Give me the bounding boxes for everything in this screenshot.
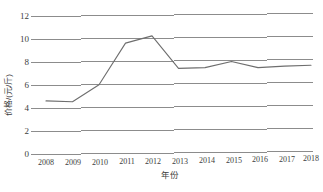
x-tick-label-2013: 2013 bbox=[172, 157, 188, 166]
line-chart: 12 10 8 6 4 2 0 价格/(元/斤) 2008 2009 2010 … bbox=[0, 0, 323, 192]
y-axis-title: 价格/(元/斤) bbox=[3, 74, 13, 116]
y-tick-label-8: 8 bbox=[25, 57, 30, 67]
y-tick-label-6: 6 bbox=[25, 80, 30, 90]
y-tickmarks bbox=[31, 17, 35, 155]
gridlines bbox=[35, 14, 313, 155]
y-tick-label-10: 10 bbox=[20, 34, 30, 44]
gridline-6 bbox=[35, 83, 313, 86]
x-tick-label-2009: 2009 bbox=[65, 158, 81, 167]
x-tick-labels: 2008 2009 2010 2011 2012 2013 2014 2015 … bbox=[38, 154, 319, 167]
x-tick-label-2016: 2016 bbox=[252, 155, 268, 164]
y-tick-label-2: 2 bbox=[25, 126, 30, 136]
y-tick-label-4: 4 bbox=[25, 103, 30, 113]
x-tick-label-2014: 2014 bbox=[199, 156, 215, 165]
x-tick-label-2008: 2008 bbox=[38, 158, 54, 167]
y-tick-label-0: 0 bbox=[25, 149, 30, 159]
chart-canvas: 12 10 8 6 4 2 0 价格/(元/斤) 2008 2009 2010 … bbox=[0, 0, 323, 192]
axis-line-x bbox=[35, 152, 313, 155]
y-tick-labels: 12 10 8 6 4 2 0 bbox=[20, 11, 30, 159]
x-tick-label-2010: 2010 bbox=[92, 158, 108, 167]
x-tick-label-2015: 2015 bbox=[226, 156, 242, 165]
y-tick-label-12: 12 bbox=[20, 11, 29, 21]
gridline-10 bbox=[35, 37, 313, 40]
x-tick-label-2017: 2017 bbox=[279, 155, 295, 164]
gridline-4 bbox=[35, 106, 313, 109]
gridline-2 bbox=[35, 129, 313, 132]
gridline-12 bbox=[35, 14, 313, 17]
x-tick-label-2012: 2012 bbox=[145, 157, 161, 166]
series-price-line bbox=[46, 36, 311, 102]
x-tick-label-2018: 2018 bbox=[303, 154, 319, 163]
x-axis-title: 年份 bbox=[161, 170, 179, 180]
x-tick-label-2011: 2011 bbox=[119, 157, 135, 166]
